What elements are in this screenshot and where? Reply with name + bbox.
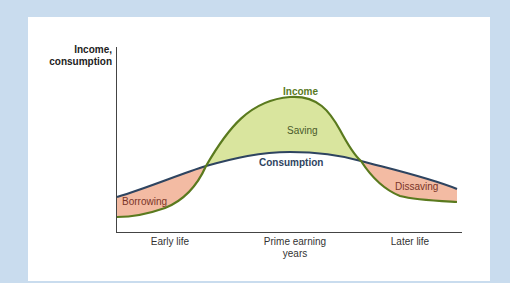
saving-area-label: Saving xyxy=(287,125,318,136)
borrowing-area-label: Borrowing xyxy=(122,196,167,207)
consumption-series-label: Consumption xyxy=(259,157,323,168)
dissaving-area-label: Dissaving xyxy=(395,181,438,192)
income-series-label: Income xyxy=(283,86,318,97)
x-tick-prime-line2: years xyxy=(255,248,335,260)
y-axis-label-line1: Income, xyxy=(49,44,112,56)
x-tick-later-life: Later life xyxy=(380,236,440,248)
x-tick-prime-line1: Prime earning xyxy=(255,236,335,248)
x-tick-early-life: Early life xyxy=(140,236,200,248)
y-axis-label: Income, consumption xyxy=(49,44,112,68)
x-tick-prime-earning-years: Prime earning years xyxy=(255,236,335,260)
y-axis-label-line2: consumption xyxy=(49,56,112,68)
